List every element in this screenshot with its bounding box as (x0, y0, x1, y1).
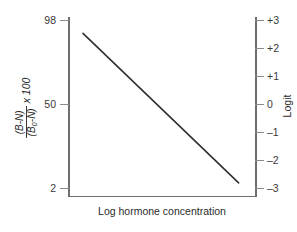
left-axis-title: (B-N) (B0-N) x 100 (15, 60, 37, 156)
fraction-numerator: (B-N) (15, 108, 26, 136)
fraction-denominator-subscript: 0 (30, 122, 39, 126)
x-axis-title: Log hormone concentration (68, 205, 256, 217)
curve-svg (0, 0, 297, 232)
fraction-denominator-tail: -N) (26, 108, 37, 122)
right-axis-title: Logit (278, 69, 296, 143)
ratio-fraction: (B-N) (B0-N) (15, 106, 38, 138)
fraction-denominator-base: (B (26, 126, 37, 136)
fraction-denominator: (B0-N) (26, 106, 38, 138)
chart-figure: 98502 +3+2+10–1–2–3 (B-N) (B0-N) x 100 L… (0, 0, 297, 232)
standard-curve-line (83, 33, 239, 183)
multiplier-text: x 100 (20, 78, 32, 104)
